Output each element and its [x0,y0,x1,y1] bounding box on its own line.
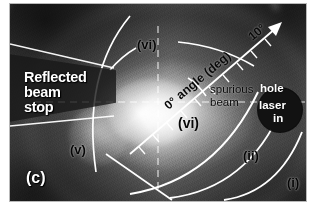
feature-label-v: (v) [70,143,86,157]
laser-entry-badge-in-label: in [273,112,283,124]
laser-entry-badge-hole-label: hole [260,82,284,94]
feature-label-ii: (ii) [243,149,259,163]
beam-stop-label-line2: beam [24,85,87,100]
feature-label-vi-mid: (vi) [178,116,199,131]
panel-label: (c) [26,170,46,187]
beam-stop-label-line3: stop [24,100,87,115]
scattering-image-plate: Reflected beam stop (c) (vi) (vi) (v) (i… [10,4,306,201]
spurious-beam-line2: beam [210,96,253,109]
laser-entry-badge-laser-label: laser [259,99,286,111]
spurious-beam-label: spurious beam [210,83,253,109]
feature-label-vi-top: (vi) [137,38,157,52]
beam-stop-label-line1: Reflected [24,70,87,85]
spurious-beam-line1: spurious [210,83,253,96]
beam-stop-label: Reflected beam stop [24,70,87,115]
feature-label-i: (i) [287,176,299,190]
leader-line-vi-top [110,48,136,70]
figure-panel: Reflected beam stop (c) (vi) (vi) (v) (i… [0,0,315,205]
